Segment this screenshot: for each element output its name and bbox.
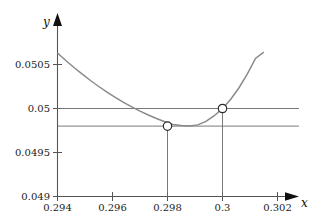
marker-point-at-0.3 xyxy=(218,104,226,112)
y-axis-arrow-icon xyxy=(53,13,62,26)
y-tick-label-0.0505: 0.0505 xyxy=(4,60,50,70)
x-tick-label-0.294: 0.294 xyxy=(33,203,82,213)
x-tick-label-0.298: 0.298 xyxy=(143,203,192,213)
x-tick-label-0.302: 0.302 xyxy=(253,203,302,213)
x-tick-label-0.296: 0.296 xyxy=(88,203,137,213)
y-tick-label-0.049: 0.049 xyxy=(4,192,50,202)
y-tick-label-0.0495: 0.0495 xyxy=(4,148,50,158)
chart-figure: 0.0505 0.05 0.0495 0.049 0.294 0.296 0.2… xyxy=(0,0,312,223)
x-tick-label-0.3: 0.3 xyxy=(198,203,247,213)
x-axis-label: x xyxy=(301,197,308,209)
y-tick-label-0.05: 0.05 xyxy=(4,104,50,114)
x-axis-arrow-icon xyxy=(285,192,299,200)
curve-path xyxy=(58,52,264,126)
y-axis-label: y xyxy=(43,16,50,28)
marker-minimum-point xyxy=(163,122,171,130)
